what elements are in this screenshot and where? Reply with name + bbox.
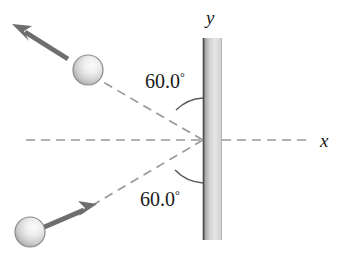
velocity-arrow-incoming-shaft [42,210,84,228]
y-axis-label: y [204,7,215,28]
ball-outgoing-body [73,55,103,85]
vertical-wall [203,38,222,240]
velocity-arrow-outgoing-shaft [25,32,68,59]
ball-outgoing [73,55,103,85]
ball-incoming-body [15,217,45,247]
physics-diagram: 60.0° 60.0° y x [0,0,341,274]
velocity-arrow-incoming [42,201,97,228]
angle-arc-bottom [175,170,203,183]
angle-label-bottom: 60.0° [140,188,180,210]
x-axis-label: x [319,130,329,151]
wall-body [203,38,222,240]
angle-arc-top [176,98,203,110]
diagram-canvas: 60.0° 60.0° y x [0,0,341,274]
ball-incoming [15,217,45,247]
velocity-arrow-outgoing [12,24,68,59]
angle-label-top: 60.0° [145,70,185,92]
